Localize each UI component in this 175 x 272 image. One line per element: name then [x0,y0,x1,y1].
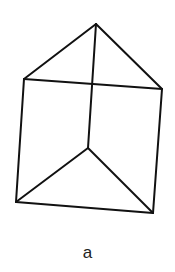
edge-bottom_left-bottom_right [16,202,153,213]
edge-top_left-bottom_left [16,79,24,202]
edge-top_apex-bottom_inner [88,24,96,148]
edge-top_apex-top_left [24,24,96,79]
prism-edges [16,24,162,213]
edge-top_apex-top_right [96,24,162,89]
edge-bottom_inner-bottom_left [16,148,88,202]
figure-caption: a [0,243,175,263]
edge-bottom_inner-bottom_right [88,148,153,213]
prism-diagram [0,0,175,272]
edge-top_right-bottom_right [153,89,162,213]
